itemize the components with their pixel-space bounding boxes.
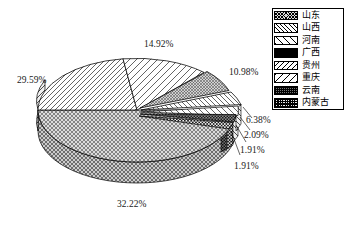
pct-label-guizhou: 6.38%	[246, 115, 271, 125]
legend-swatch-icon-yunnan	[274, 86, 298, 96]
legend-item-neimenggu[interactable]: 内蒙古	[273, 97, 343, 110]
legend-swatch-icon-shandong	[274, 11, 298, 21]
slice-shanxi	[38, 59, 137, 110]
legend-item-guangxi[interactable]: 广西	[273, 47, 343, 60]
pct-label-neimenggu: 1.91%	[234, 161, 259, 171]
legend-swatch-icon-shanxi	[274, 23, 298, 33]
legend-label-chongqing: 重庆	[302, 73, 320, 82]
legend-item-shanxi[interactable]: 山西	[273, 22, 343, 35]
legend-swatch-icon-guizhou	[274, 61, 298, 71]
legend-item-guizhou[interactable]: 贵州	[273, 59, 343, 72]
pct-label-shanxi: 29.59%	[17, 75, 46, 85]
legend-item-chongqing[interactable]: 重庆	[273, 72, 343, 85]
legend-label-yunnan: 云南	[302, 86, 320, 95]
legend-swatch-icon-guangxi	[274, 48, 298, 58]
chart-legend: 山东 山西 河南 广西 贵州 重庆 云南 内蒙古	[272, 8, 344, 110]
pct-label-guangxi: 10.98%	[229, 67, 258, 77]
legend-swatch-icon-neimenggu	[274, 98, 298, 108]
legend-item-shandong[interactable]: 山东	[273, 9, 343, 22]
legend-swatch-icon-henan	[274, 36, 298, 46]
pct-label-shandong: 32.22%	[117, 199, 146, 209]
legend-item-henan[interactable]: 河南	[273, 34, 343, 47]
legend-label-guizhou: 贵州	[302, 61, 320, 70]
legend-swatch-icon-chongqing	[274, 73, 298, 83]
legend-label-shanxi: 山西	[302, 23, 320, 32]
legend-label-neimenggu: 内蒙古	[302, 98, 329, 107]
pie-chart-figure: 14.92% 10.98% 29.59% 6.38% 2.09% 1.91% 1…	[0, 0, 350, 227]
legend-label-shandong: 山东	[302, 11, 320, 20]
legend-label-henan: 河南	[302, 36, 320, 45]
pct-label-henan: 14.92%	[144, 39, 173, 49]
legend-label-guangxi: 广西	[302, 48, 320, 57]
legend-item-yunnan[interactable]: 云南	[273, 84, 343, 97]
pct-label-yunnan: 1.91%	[240, 145, 265, 155]
pct-label-chongqing: 2.09%	[244, 130, 269, 140]
